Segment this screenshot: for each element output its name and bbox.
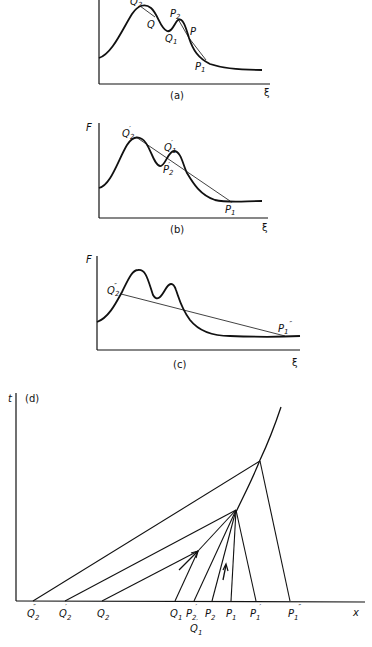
panel-c-curve xyxy=(97,270,300,337)
char-Q2-prime xyxy=(65,510,236,601)
panel-b-x-label: ξ xyxy=(262,222,268,233)
label-P1-double-prime-axis: P1″ xyxy=(288,603,302,622)
label-Q1-axis: Q1 xyxy=(170,608,182,622)
panel-d-x-axis xyxy=(16,601,365,602)
label-Q2-prime-axis: Q2′ xyxy=(59,603,72,622)
label-P1: P1 xyxy=(195,61,206,74)
label-Q2-double-prime: Q2″ xyxy=(107,282,120,298)
inner-shock-lower xyxy=(179,551,198,570)
panel-b-curve xyxy=(99,137,262,201)
panel-b: F Q2′ Q1′ P2′ P1′ (b) ξ xyxy=(86,122,268,235)
label-P1-axis: P1 xyxy=(226,608,237,622)
panel-c-y-label: F xyxy=(86,254,92,265)
panel-d-caption: (d) xyxy=(25,393,39,404)
shock-trajectory xyxy=(236,407,281,512)
axis-point-labels: Q2″ Q2′ Q2 Q1 P2′ P2 P1 P1′ P1″ Q1′ x xyxy=(27,603,359,637)
panel-d: t (d) Q2″ Q2′ Q2 Q1 P2′ P2 P xyxy=(8,393,365,637)
panel-c: F Q2″ P1″ (c) ξ xyxy=(86,254,300,370)
panel-b-chord xyxy=(136,137,230,201)
label-P1-prime-axis: P1′ xyxy=(250,603,262,622)
panel-d-t-label: t xyxy=(8,393,13,404)
label-Q2-double-prime-axis: Q2″ xyxy=(27,603,40,622)
label-P1-prime: P1′ xyxy=(225,201,236,217)
label-Q1-prime: Q1′ xyxy=(164,139,176,155)
label-Q1: Q1 xyxy=(165,33,177,46)
panel-d-x-label: x xyxy=(352,607,359,618)
panel-c-caption: (c) xyxy=(173,359,186,370)
label-Q: Q xyxy=(147,19,155,30)
panel-c-x-label: ξ xyxy=(292,357,298,368)
figure-canvas: Q2 Q P2 Q1 P P1 (a) ξ F Q2′ Q1′ P2′ P1′ … xyxy=(0,0,372,647)
panel-b-caption: (b) xyxy=(170,224,184,235)
label-P1-double-prime: P1″ xyxy=(278,320,293,336)
label-P2-prime: P2′ xyxy=(163,161,174,177)
char-P1-double-prime xyxy=(260,461,290,601)
panel-b-y-label: F xyxy=(86,122,92,133)
panel-a-chord-P-P1 xyxy=(189,38,206,60)
char-Q2 xyxy=(102,551,198,601)
char-P1 xyxy=(231,510,236,601)
label-Q2-prime: Q2′ xyxy=(122,125,135,141)
panel-a-curve xyxy=(99,5,262,70)
label-Q2-axis: Q2 xyxy=(97,608,110,622)
panel-a-x-label: ξ xyxy=(264,87,270,98)
label-P2-axis: P2 xyxy=(205,608,216,622)
label-P2: P2 xyxy=(170,8,181,21)
char-Q1 xyxy=(175,551,198,601)
char-P1-prime xyxy=(236,510,256,601)
panel-a: Q2 Q P2 Q1 P P1 (a) ξ xyxy=(99,0,270,101)
char-P2-prime xyxy=(194,510,236,601)
label-P: P xyxy=(190,26,197,37)
panel-a-caption: (a) xyxy=(170,90,184,101)
